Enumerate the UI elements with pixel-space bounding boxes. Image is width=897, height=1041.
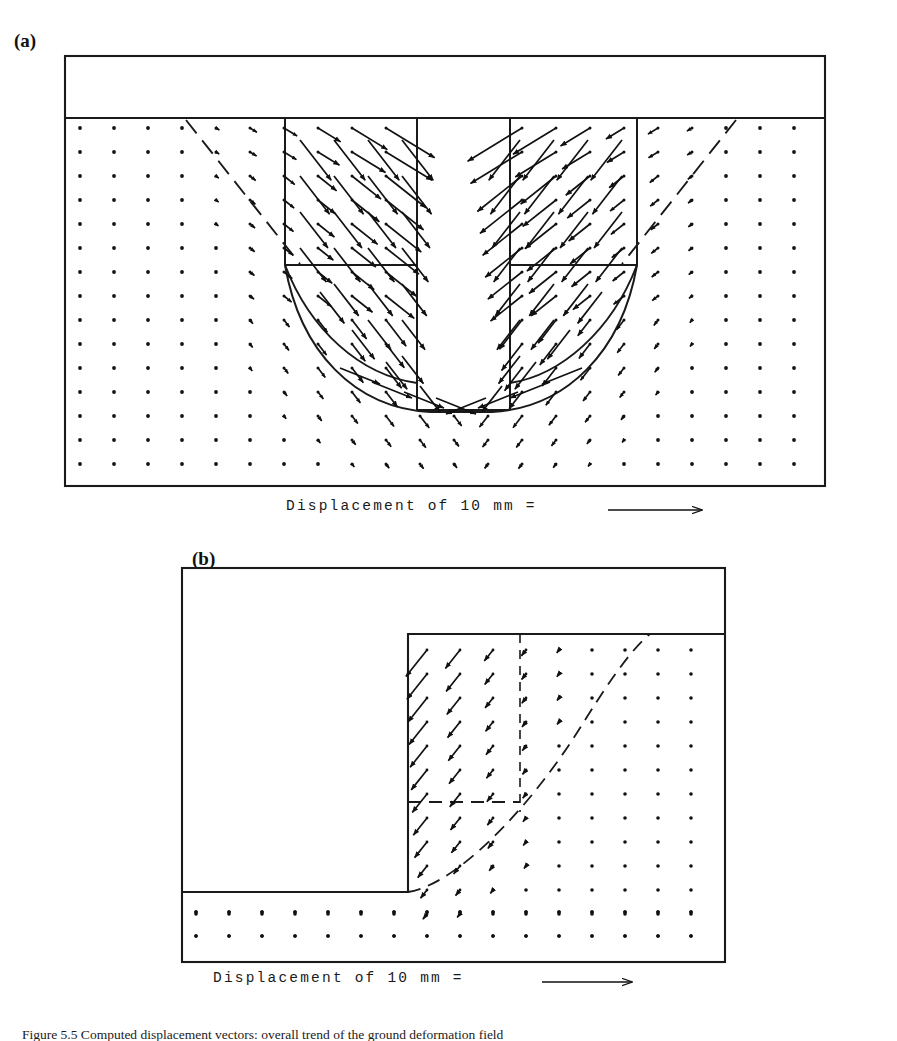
panel-b-failure-surface-dashed xyxy=(408,634,650,892)
figure-container: (a) xyxy=(0,0,897,1041)
panel-b-legend-label: Displacement of 10 mm = xyxy=(213,970,464,986)
figure-caption: Figure 5.5 Computed displacement vectors… xyxy=(22,1027,882,1041)
panel-b-displacement-vectors xyxy=(406,650,559,919)
panel-a-legend-arrow-icon xyxy=(606,499,746,519)
panel-b-step-outline xyxy=(182,634,725,892)
panel-a-failure-surface-dashed xyxy=(186,120,736,264)
panel-a-vector-field xyxy=(0,0,897,500)
panel-b-node-dots xyxy=(194,648,693,938)
panel-a-frame xyxy=(65,56,825,486)
panel-a-displacement-vectors xyxy=(216,128,692,469)
panel-a-excavation-outline xyxy=(285,118,637,412)
panel-b-legend-arrow-icon xyxy=(540,971,680,991)
panel-b-frame xyxy=(182,568,725,962)
panel-b-vector-field xyxy=(0,540,897,1000)
panel-a-node-dots xyxy=(78,126,796,466)
panel-a-legend-label: Displacement of 10 mm = xyxy=(286,498,537,514)
